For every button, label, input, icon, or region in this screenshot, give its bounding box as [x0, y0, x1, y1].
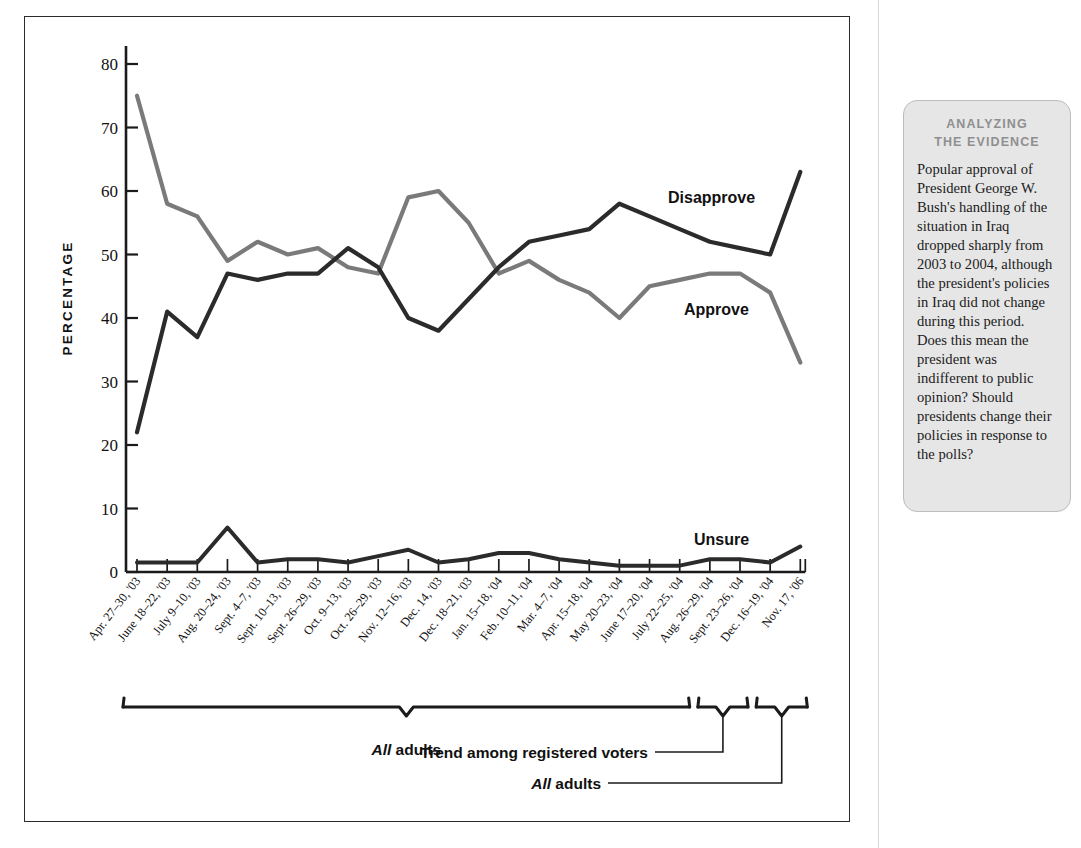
series-line-approve [137, 96, 800, 363]
analyzing-the-evidence-heading: ANALYZING THE EVIDENCE [917, 115, 1057, 151]
y-axis-tick-label: 30 [101, 373, 118, 392]
brace-group-2 [698, 707, 748, 716]
heading-line-1: ANALYZING [917, 115, 1057, 133]
brace-group-2-end [698, 698, 699, 707]
analyzing-the-evidence-body: Popular approval of President George W. … [917, 160, 1057, 464]
y-axis-title: PERCENTAGE [60, 241, 75, 356]
series-label-disapprove: Disapprove [668, 189, 755, 206]
brace-group-2-end [747, 698, 748, 707]
group-label-registered-voters: Trend among registered voters [421, 744, 648, 761]
group-label-all-adults-2: All adults [530, 775, 601, 792]
heading-line-2: THE EVIDENCE [917, 133, 1057, 151]
y-axis-tick-label: 20 [101, 436, 118, 455]
y-axis-tick-label: 50 [101, 246, 118, 265]
brace-group-1 [123, 707, 690, 716]
series-label-approve: Approve [684, 301, 749, 318]
y-axis-tick-label: 60 [101, 182, 118, 201]
leader-line-registered-voters [655, 717, 723, 752]
y-axis-tick-label: 40 [101, 309, 118, 328]
figure-root: 01020304050607080PERCENTAGEApr. 27–30, '… [0, 0, 1081, 848]
analyzing-the-evidence-box: ANALYZING THE EVIDENCE Popular approval … [903, 100, 1071, 512]
y-axis-tick-label: 70 [101, 119, 118, 138]
brace-group-3 [756, 707, 807, 716]
y-axis-tick-label: 10 [101, 500, 118, 519]
brace-group-1-end [123, 698, 124, 707]
brace-group-3-end [756, 698, 757, 707]
series-label-unsure: Unsure [694, 531, 749, 548]
brace-group-3-end [806, 698, 807, 707]
y-axis-tick-label: 80 [101, 55, 118, 74]
y-axis-tick-label: 0 [110, 563, 119, 582]
brace-group-1-end [689, 698, 690, 707]
